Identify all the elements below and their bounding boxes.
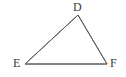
vertex-label-f: F bbox=[110, 57, 117, 69]
vertex-label-e: E bbox=[13, 57, 20, 69]
edge-f-d bbox=[78, 15, 107, 64]
vertex-label-d: D bbox=[73, 1, 82, 13]
edge-d-e bbox=[25, 15, 78, 64]
triangle-figure: D E F bbox=[0, 0, 126, 77]
triangle-outline bbox=[25, 15, 107, 64]
